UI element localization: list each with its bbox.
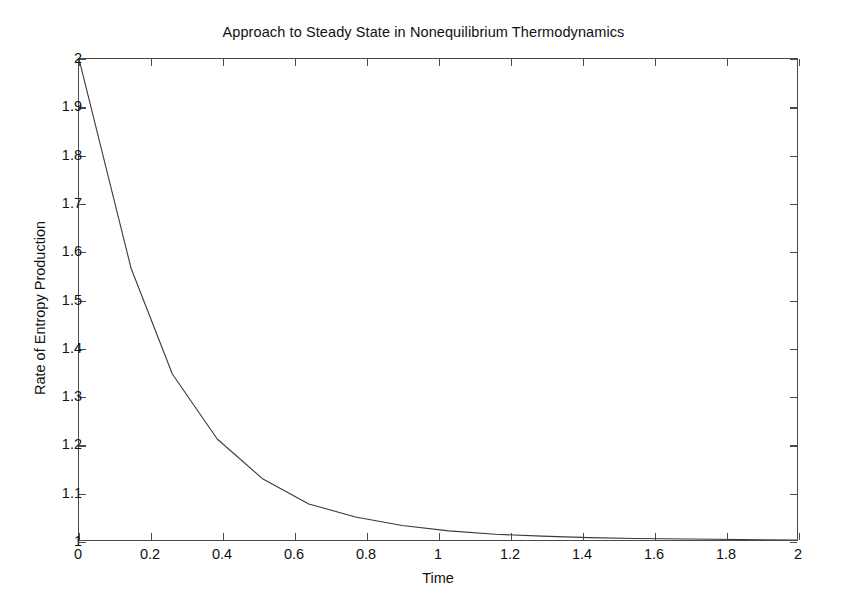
x-tick-mark-top bbox=[295, 59, 296, 66]
y-tick-label: 1.2 bbox=[62, 436, 82, 452]
x-tick-label: 1.2 bbox=[500, 546, 520, 562]
x-tick-mark bbox=[799, 533, 800, 540]
x-tick-mark bbox=[151, 533, 152, 540]
x-tick-mark-top bbox=[367, 59, 368, 66]
y-tick-mark-right bbox=[790, 397, 797, 398]
x-tick-mark bbox=[439, 533, 440, 540]
x-tick-mark-top bbox=[799, 59, 800, 66]
y-tick-label: 1.4 bbox=[62, 340, 82, 356]
x-tick-label: 2 bbox=[794, 546, 802, 562]
y-tick-mark-right bbox=[790, 301, 797, 302]
x-tick-mark-top bbox=[655, 59, 656, 66]
y-tick-label: 1 bbox=[74, 533, 82, 549]
x-tick-label: 0.6 bbox=[284, 546, 304, 562]
x-tick-mark bbox=[223, 533, 224, 540]
x-tick-mark bbox=[511, 533, 512, 540]
x-tick-label: 0.2 bbox=[140, 546, 160, 562]
x-tick-mark-top bbox=[727, 59, 728, 66]
y-tick-mark-right bbox=[790, 107, 797, 108]
y-tick-label: 1.6 bbox=[62, 243, 82, 259]
x-tick-mark-top bbox=[583, 59, 584, 66]
x-tick-label: 1.6 bbox=[644, 546, 664, 562]
curve-svg bbox=[79, 59, 797, 540]
x-axis-label: Time bbox=[78, 570, 798, 586]
x-tick-mark-top bbox=[511, 59, 512, 66]
y-tick-mark-right bbox=[790, 252, 797, 253]
y-tick-mark-right bbox=[790, 156, 797, 157]
x-tick-label: 1.8 bbox=[716, 546, 736, 562]
plot-area bbox=[78, 58, 798, 541]
x-tick-mark-top bbox=[223, 59, 224, 66]
x-tick-label: 0.4 bbox=[212, 546, 232, 562]
x-tick-mark bbox=[727, 533, 728, 540]
x-tick-label: 0.8 bbox=[356, 546, 376, 562]
y-tick-label: 1.1 bbox=[62, 485, 82, 501]
y-tick-label: 1.5 bbox=[62, 292, 82, 308]
y-tick-label: 1.9 bbox=[62, 98, 82, 114]
y-tick-mark-right bbox=[790, 349, 797, 350]
y-tick-label: 1.8 bbox=[62, 147, 82, 163]
x-tick-mark-top bbox=[439, 59, 440, 66]
page-title: Approach to Steady State in Nonequilibri… bbox=[0, 24, 847, 40]
x-tick-mark bbox=[655, 533, 656, 540]
y-tick-label: 1.3 bbox=[62, 388, 82, 404]
x-tick-label: 1 bbox=[434, 546, 442, 562]
x-tick-mark bbox=[367, 533, 368, 540]
x-tick-label: 1.4 bbox=[572, 546, 592, 562]
y-tick-mark-right bbox=[790, 494, 797, 495]
y-tick-mark-right bbox=[790, 59, 797, 60]
y-tick-mark-right bbox=[790, 204, 797, 205]
y-tick-label: 1.7 bbox=[62, 195, 82, 211]
y-axis-label: Rate of Entropy Production bbox=[32, 198, 48, 418]
figure-canvas: Approach to Steady State in Nonequilibri… bbox=[0, 0, 847, 606]
x-tick-mark-top bbox=[151, 59, 152, 66]
y-tick-mark-right bbox=[790, 445, 797, 446]
x-tick-mark bbox=[583, 533, 584, 540]
data-series-line bbox=[79, 59, 797, 540]
y-tick-mark-right bbox=[790, 542, 797, 543]
x-tick-mark bbox=[295, 533, 296, 540]
y-tick-label: 2 bbox=[74, 50, 82, 66]
